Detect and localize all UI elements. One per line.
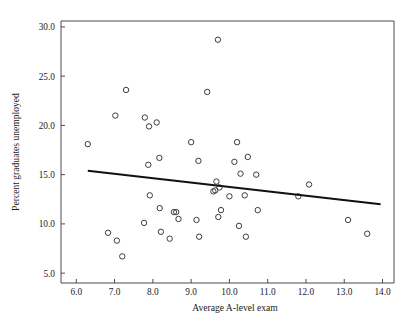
y-tick-label: 25.0 bbox=[39, 72, 56, 82]
data-point bbox=[345, 217, 350, 222]
x-tick-label: 7.0 bbox=[109, 287, 121, 297]
x-tick-label: 12.0 bbox=[298, 287, 315, 297]
data-point bbox=[146, 162, 151, 167]
y-tick-label: 15.0 bbox=[39, 170, 56, 180]
data-point bbox=[205, 89, 210, 94]
y-axis-title: Percent graduates unemployed bbox=[10, 93, 21, 211]
data-point bbox=[154, 120, 159, 125]
data-point bbox=[158, 229, 163, 234]
data-point bbox=[157, 205, 162, 210]
data-point bbox=[215, 37, 220, 42]
x-tick-label: 8.0 bbox=[147, 287, 159, 297]
data-points-group bbox=[85, 37, 370, 259]
data-point bbox=[238, 171, 243, 176]
x-tick-label: 13.0 bbox=[336, 287, 353, 297]
data-point bbox=[196, 234, 201, 239]
plot-canvas: 6.07.08.09.010.011.012.013.014.05.010.01… bbox=[0, 0, 412, 321]
tick-labels-group: 6.07.08.09.010.011.012.013.014.05.010.01… bbox=[39, 22, 391, 297]
y-tick-label: 5.0 bbox=[43, 269, 55, 279]
data-point bbox=[232, 159, 237, 164]
trend-line-group bbox=[88, 171, 381, 204]
y-tick-label: 30.0 bbox=[39, 22, 56, 32]
data-point bbox=[120, 254, 125, 259]
data-point bbox=[114, 238, 119, 243]
data-point bbox=[234, 139, 239, 144]
data-point bbox=[188, 139, 193, 144]
data-point bbox=[146, 124, 151, 129]
x-axis-title: Average A-level exam bbox=[192, 302, 278, 313]
data-point bbox=[194, 217, 199, 222]
data-point bbox=[216, 214, 221, 219]
data-point bbox=[147, 193, 152, 198]
data-point bbox=[113, 113, 118, 118]
data-point bbox=[142, 115, 147, 120]
trend-line bbox=[88, 171, 381, 204]
data-point bbox=[255, 207, 260, 212]
data-point bbox=[243, 234, 248, 239]
data-point bbox=[157, 155, 162, 160]
data-point bbox=[245, 154, 250, 159]
y-tick-label: 10.0 bbox=[39, 219, 56, 229]
x-tick-label: 9.0 bbox=[185, 287, 197, 297]
data-point bbox=[123, 87, 128, 92]
data-point bbox=[306, 182, 311, 187]
data-point bbox=[242, 193, 247, 198]
data-point bbox=[365, 231, 370, 236]
data-point bbox=[218, 207, 223, 212]
data-point bbox=[196, 158, 201, 163]
data-point bbox=[176, 216, 181, 221]
data-point bbox=[254, 172, 259, 177]
data-point bbox=[141, 220, 146, 225]
data-point bbox=[105, 230, 110, 235]
axes-group bbox=[61, 21, 394, 283]
plot-frame bbox=[61, 21, 394, 283]
data-point bbox=[85, 141, 90, 146]
x-tick-label: 11.0 bbox=[260, 287, 276, 297]
data-point bbox=[214, 179, 219, 184]
data-point bbox=[227, 194, 232, 199]
y-tick-label: 20.0 bbox=[39, 121, 56, 131]
x-tick-label: 10.0 bbox=[221, 287, 238, 297]
x-tick-label: 6.0 bbox=[70, 287, 82, 297]
data-point bbox=[236, 223, 241, 228]
data-point bbox=[167, 236, 172, 241]
x-tick-label: 14.0 bbox=[374, 287, 391, 297]
ticks-group bbox=[61, 27, 383, 283]
scatter-plot-figure: 6.07.08.09.010.011.012.013.014.05.010.01… bbox=[0, 0, 412, 321]
